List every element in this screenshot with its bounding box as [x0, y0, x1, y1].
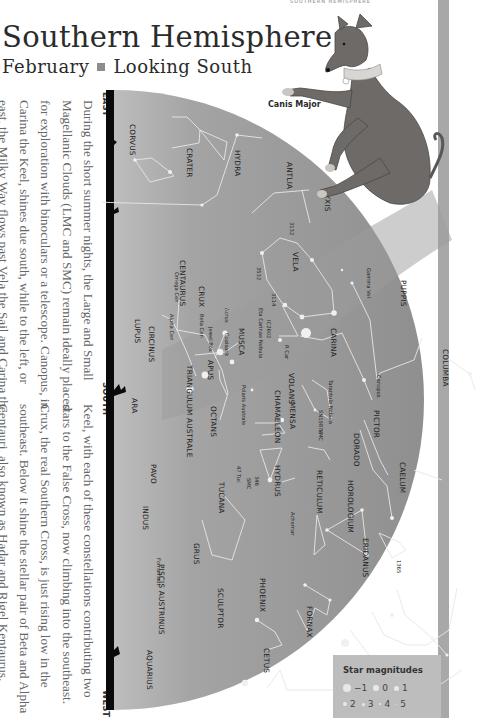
canis-major-illustration	[280, 8, 449, 218]
label-ara: ARA	[130, 398, 139, 413]
legend-value: 3	[368, 699, 374, 709]
label-3132: 3132	[289, 222, 295, 235]
label-acrux: Acrux	[224, 308, 230, 323]
text-line: Keel, with each of these constellations …	[78, 404, 99, 713]
label-reticulum: RETICULUM	[315, 470, 324, 514]
label-hydrus: HYDRUS	[273, 465, 282, 497]
label-lmc: LMC	[318, 430, 324, 441]
label-grus: GRUS	[192, 543, 201, 565]
legend-row-2: 2 3 4 5	[343, 699, 412, 709]
label-triangulum-australe: TRIANGULUM AUSTRALE	[185, 365, 194, 457]
label-3532: 3532	[256, 267, 262, 280]
legend-item: −1	[343, 683, 367, 693]
label-polaris-australe: Polaris Australe	[241, 385, 247, 425]
subtitle-month: February	[2, 56, 89, 77]
legend-item: 2	[343, 699, 356, 709]
label-pavo: PAVO	[149, 464, 158, 484]
label-fomalhaut: Fomalhaut	[156, 558, 162, 585]
label-octans: OCTANS	[209, 406, 218, 437]
body-text-column-1: During the short summer nights, the Larg…	[0, 100, 99, 413]
text-line: Centauri, also known as Hadar and Rigel …	[0, 404, 14, 713]
label-eridanus: ERIDANUS	[361, 538, 370, 577]
label-carina: CARINA	[329, 328, 338, 357]
label-fornax: FORNAX	[305, 606, 314, 638]
label-smc: SMC	[246, 478, 252, 489]
label-phoenix: PHOENIX	[258, 578, 267, 612]
label-circinus: CIRCINUS	[147, 326, 156, 362]
label-crux: CRUX	[197, 286, 206, 307]
label-pictor: PICTOR	[372, 410, 381, 438]
label-r-car: R Car	[284, 345, 290, 359]
legend-value: 5	[400, 699, 406, 709]
legend-value: 2	[350, 699, 356, 709]
label-columba: COLUMBA	[441, 349, 450, 387]
label-346: 346	[254, 476, 260, 486]
label-coalsack: Coalsack	[224, 333, 230, 356]
label-tucana: TUCANA	[217, 482, 226, 514]
text-line: southeast. Below it shine the stellar pa…	[14, 404, 35, 713]
text-line: Carina the Keel, shines due south, while…	[14, 100, 35, 413]
legend-value: 4	[384, 699, 390, 709]
label-hydra: HYDRA	[233, 150, 242, 176]
subtitle-view: Looking South	[113, 56, 252, 77]
legend-value: 0	[382, 683, 388, 693]
label-jewel-box: Jewel Box	[208, 327, 214, 352]
star-dot-icon	[373, 685, 379, 691]
star-dot-icon	[343, 702, 347, 706]
label-eta-carinae-nebula: Eta Carinae Nebula	[258, 308, 264, 358]
label-crater: CRATER	[185, 148, 194, 178]
label-gamma-vel: Gamma Vel	[366, 268, 372, 298]
star-dot-icon	[394, 686, 399, 691]
label-puppis: PUPPIS	[399, 280, 408, 307]
square-bullet-icon	[97, 63, 105, 71]
label-lupus: LUPUS	[133, 319, 142, 343]
label-47-tuc: 47 Tuc	[236, 466, 242, 483]
legend-item: 3	[362, 699, 374, 709]
star-dot-icon	[379, 703, 381, 705]
label-beta-cen: Beta Cen	[199, 314, 205, 338]
legend-item: 4	[379, 699, 390, 709]
label-dorado: DORADO	[352, 433, 361, 467]
label-apus: APUS	[206, 360, 215, 380]
text-line: Magellanic Clouds (LMC and SMC) remain i…	[56, 100, 77, 413]
text-line: Crux, the real Southern Cross, is just r…	[35, 404, 56, 713]
label-achernar: Achernar	[290, 512, 296, 535]
label-omega-cen: Omega Cen	[174, 272, 180, 303]
page-subtitle: FebruaryLooking South	[2, 56, 253, 77]
label-alpha-cen: Alpha Cen	[169, 314, 175, 341]
legend-row-1: −1 0 1	[343, 683, 414, 693]
label-chamaeleon: CHAMAELEON	[273, 390, 282, 443]
text-line: east, the Milky Way flows past Vela the …	[0, 100, 14, 413]
legend-item: 5	[396, 699, 406, 709]
star-dot-icon	[396, 704, 397, 705]
star-dot-icon	[362, 703, 365, 706]
legend-value: −1	[354, 683, 367, 693]
text-line: During the short summer nights, the Larg…	[78, 100, 99, 413]
text-line: for exploration with binoculars or a tel…	[35, 100, 56, 413]
star-magnitudes-legend: Star magnitudes −1 0 1 2 3 4 5	[333, 655, 441, 718]
label-musca: MUSCA	[237, 328, 246, 355]
legend-title: Star magnitudes	[343, 665, 423, 675]
label-tarantula-nebula: Tarantula Nebula	[328, 380, 334, 424]
label-volans: VOLANS	[287, 373, 296, 404]
label-mensa: MENSA	[288, 402, 297, 429]
label-horologium: HOROLOGIUM	[346, 480, 355, 533]
canis-major-caption: Canis Major	[268, 100, 321, 109]
label-sculptor: SCULPTOR	[216, 588, 225, 628]
label-corvus: CORVUS	[128, 124, 137, 156]
legend-item: 1	[394, 683, 408, 693]
running-header: SOUTHERN HEMISPHERE	[290, 0, 420, 4]
legend-value: 1	[402, 683, 408, 693]
legend-item: 0	[373, 683, 388, 693]
text-line: stars to the False Cross, now climbing i…	[56, 404, 77, 713]
label-aquarius: AQUARIUS	[145, 650, 154, 690]
star-dot-icon	[343, 684, 351, 692]
label-caelum: CAELUM	[398, 462, 407, 493]
label-cetus: CETUS	[262, 648, 271, 673]
label-canopus: Canopus	[376, 375, 382, 398]
label-indus: INDUS	[141, 506, 150, 530]
label-3114: 3114	[271, 293, 277, 306]
label-1365: 1365	[396, 560, 402, 573]
label-ic2602: IC2602	[266, 320, 272, 338]
body-text-column-2: Keel, with each of these constellations …	[0, 404, 99, 713]
